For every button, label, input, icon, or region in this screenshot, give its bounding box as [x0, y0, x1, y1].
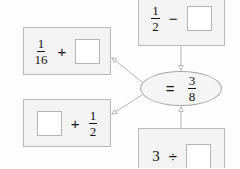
fraction-numerator: 1 [151, 4, 160, 19]
fraction-one-half: 1 2 [151, 4, 160, 33]
divide-operator: ÷ [169, 149, 177, 164]
connector-center-to-bottom-left [112, 95, 142, 114]
fraction-denominator: 2 [89, 124, 98, 138]
bottom-left-expression-box[interactable]: + 1 2 [23, 99, 111, 147]
diagram-canvas: 1 16 + + 1 2 1 2 − 3 ÷ = 3 8 [0, 0, 240, 168]
fraction-numerator: 3 [188, 74, 197, 89]
result-ellipse[interactable]: = 3 8 [140, 71, 222, 106]
blank-answer-box[interactable] [37, 111, 62, 136]
connector-center-to-top-left [112, 58, 142, 82]
fraction-numerator: 1 [89, 109, 98, 124]
fraction-one-half: 1 2 [89, 109, 98, 138]
bottom-right-expression-box[interactable]: 3 ÷ [138, 128, 225, 168]
fraction-denominator: 2 [151, 19, 160, 33]
minus-operator: − [169, 11, 178, 26]
fraction-numerator: 1 [37, 37, 46, 52]
whole-number-three: 3 [152, 149, 160, 164]
fraction-three-eighths: 3 8 [188, 74, 197, 103]
equals-operator: = [166, 81, 175, 96]
top-left-expression-box[interactable]: 1 16 + [23, 27, 111, 75]
blank-answer-box[interactable] [186, 144, 211, 169]
plus-operator: + [71, 116, 80, 131]
fraction-denominator: 8 [188, 89, 197, 103]
fraction-denominator: 16 [34, 52, 49, 66]
blank-answer-box[interactable] [75, 39, 100, 64]
fraction-one-sixteenth: 1 16 [34, 37, 49, 66]
top-right-expression-box[interactable]: 1 2 − [138, 0, 225, 46]
blank-answer-box[interactable] [187, 6, 212, 31]
plus-operator: + [58, 44, 67, 59]
